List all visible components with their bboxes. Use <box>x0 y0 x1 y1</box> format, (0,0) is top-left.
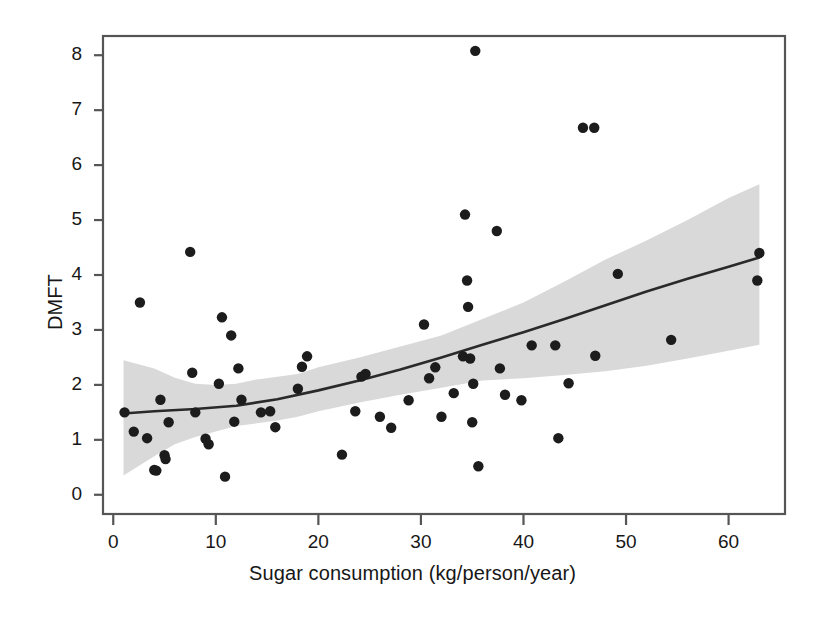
data-point <box>151 465 161 475</box>
data-point <box>495 363 505 373</box>
data-point <box>119 407 129 417</box>
y-tick-label: 8 <box>48 43 82 65</box>
data-point <box>578 123 588 133</box>
data-point <box>492 226 502 236</box>
data-point <box>360 369 370 379</box>
data-point <box>590 351 600 361</box>
data-point <box>135 297 145 307</box>
scatter-plot-figure: Sugar consumption (kg/person/year) DMFT … <box>0 0 825 621</box>
data-point <box>190 407 200 417</box>
data-point <box>470 46 480 56</box>
data-point <box>666 335 676 345</box>
y-tick-label: 6 <box>48 153 82 175</box>
data-point <box>436 412 446 422</box>
y-tick-label: 0 <box>48 483 82 505</box>
data-point <box>500 390 510 400</box>
data-point <box>185 247 195 257</box>
data-point <box>142 433 152 443</box>
data-point <box>419 319 429 329</box>
data-point <box>214 379 224 389</box>
data-point <box>460 209 470 219</box>
data-point <box>563 378 573 388</box>
data-point <box>430 362 440 372</box>
data-point <box>465 353 475 363</box>
data-point <box>129 426 139 436</box>
data-point <box>473 461 483 471</box>
y-tick-label: 2 <box>48 373 82 395</box>
data-point <box>256 407 266 417</box>
data-point <box>293 384 303 394</box>
data-point <box>233 363 243 373</box>
y-tick-label: 3 <box>48 318 82 340</box>
data-point <box>270 422 280 432</box>
data-point <box>297 362 307 372</box>
data-point <box>589 123 599 133</box>
data-point <box>613 269 623 279</box>
data-point <box>265 406 275 416</box>
data-point <box>449 388 459 398</box>
x-tick-label: 0 <box>93 531 133 553</box>
data-point <box>752 275 762 285</box>
data-point <box>203 439 213 449</box>
data-point <box>462 275 472 285</box>
data-point <box>550 340 560 350</box>
x-tick-label: 20 <box>298 531 338 553</box>
x-tick-label: 60 <box>709 531 749 553</box>
confidence-band-shape <box>124 184 760 475</box>
data-point <box>350 406 360 416</box>
data-point <box>220 471 230 481</box>
x-tick-label: 10 <box>196 531 236 553</box>
data-point <box>375 412 385 422</box>
data-point <box>526 340 536 350</box>
y-tick-label: 7 <box>48 98 82 120</box>
x-axis-title: Sugar consumption (kg/person/year) <box>0 562 825 585</box>
data-point <box>468 379 478 389</box>
x-tick-label: 30 <box>401 531 441 553</box>
data-point <box>236 395 246 405</box>
confidence-band <box>124 184 760 475</box>
data-point <box>229 416 239 426</box>
data-point <box>754 248 764 258</box>
data-point <box>553 433 563 443</box>
data-point <box>160 454 170 464</box>
data-point <box>217 312 227 322</box>
y-tick-label: 1 <box>48 428 82 450</box>
y-tick-label: 5 <box>48 208 82 230</box>
data-point <box>155 395 165 405</box>
data-point <box>337 449 347 459</box>
plot-canvas <box>0 0 825 621</box>
data-point <box>187 368 197 378</box>
data-point <box>516 395 526 405</box>
data-point <box>302 351 312 361</box>
x-tick-label: 50 <box>606 531 646 553</box>
data-point <box>386 423 396 433</box>
data-point <box>403 395 413 405</box>
data-point <box>463 302 473 312</box>
data-point <box>226 330 236 340</box>
data-point <box>163 417 173 427</box>
y-tick-label: 4 <box>48 263 82 285</box>
data-point <box>467 417 477 427</box>
data-point <box>424 373 434 383</box>
x-tick-label: 40 <box>503 531 543 553</box>
